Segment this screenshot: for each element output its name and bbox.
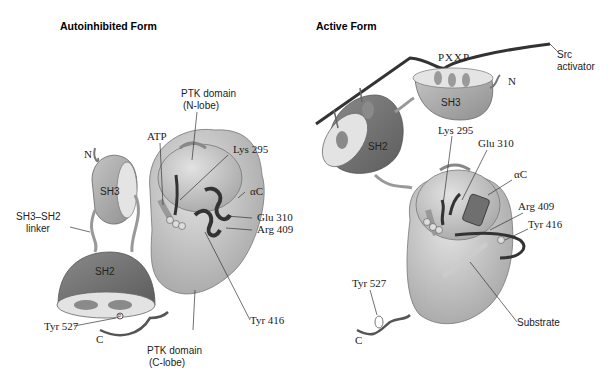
tyr416-phospho xyxy=(498,237,505,244)
label-c-terminus-active: C xyxy=(355,334,362,346)
c-term-tail-active xyxy=(357,315,410,334)
label-lys295-active: Lys 295 xyxy=(438,124,474,136)
n-lobe-loop-active xyxy=(440,165,470,170)
sh2-pocket-b xyxy=(336,131,348,149)
panel-title-active: Active Form xyxy=(316,20,377,32)
label-pxxp-motif: PXXP xyxy=(438,51,470,63)
sh2-sh3-linker xyxy=(395,98,414,112)
label-sh2: SH2 xyxy=(95,266,115,277)
label-tyr416-active: Tyr 416 xyxy=(528,218,563,230)
autoinhibited-panel: Autoinhibited Form P xyxy=(16,20,294,368)
label-ptk-c-lobe: PTK domain xyxy=(147,345,202,356)
label-n-terminus-active: N xyxy=(508,75,516,87)
label-lys295: Lys 295 xyxy=(233,143,269,155)
sh2-pocket-a xyxy=(362,101,374,119)
sh3-face xyxy=(117,162,137,218)
sh2-kinase-linker xyxy=(375,175,412,188)
label-sh2-active: SH2 xyxy=(368,141,388,152)
sh3-pocket-3 xyxy=(462,73,470,87)
label-n-terminus: N xyxy=(84,148,92,160)
sh3-pocket-1 xyxy=(434,71,442,85)
label-c-terminus: C xyxy=(96,333,103,345)
sh3-sh2-linker-chain xyxy=(91,210,96,252)
label-linker: SH3–SH2 xyxy=(16,211,61,222)
label-ptk-c-lobe-sub: (C-lobe) xyxy=(149,357,185,368)
sh2-pocket-2 xyxy=(108,300,132,310)
label-atp: ATP xyxy=(147,130,167,142)
label-tyr527: Tyr 527 xyxy=(44,320,79,332)
tyr527-ring-active xyxy=(375,316,383,328)
label-substrate: Substrate xyxy=(517,317,560,328)
label-linker-sub: linker xyxy=(26,223,51,234)
label-arg409: Arg 409 xyxy=(257,223,294,235)
sh2-pocket-1 xyxy=(74,300,98,310)
panel-title-autoinhibited: Autoinhibited Form xyxy=(60,20,157,32)
sh2-face xyxy=(57,292,155,318)
sh3-pocket-2 xyxy=(448,73,456,87)
label-src-activator-sub: activator xyxy=(557,61,595,72)
label-ptk-n-lobe: PTK domain xyxy=(181,88,236,99)
label-src-activator: Src xyxy=(557,49,572,60)
label-tyr527-active: Tyr 527 xyxy=(352,277,387,289)
ptk-n-lobe xyxy=(158,144,242,212)
n-term-chain xyxy=(94,148,98,161)
label-glu310: Glu 310 xyxy=(257,211,293,223)
label-ptk-n-lobe-sub: (N-lobe) xyxy=(183,100,219,111)
label-tyr416: Tyr 416 xyxy=(250,314,285,326)
label-alpha-c-active: αC xyxy=(514,168,527,180)
label-arg409-active: Arg 409 xyxy=(518,200,555,212)
active-panel: Active Form xyxy=(313,20,595,346)
label-alpha-c: αC xyxy=(250,185,263,197)
label-sh3-active: SH3 xyxy=(441,97,461,108)
label-glu310-active: Glu 310 xyxy=(478,137,514,149)
src-kinase-diagram: Autoinhibited Form P xyxy=(0,0,616,382)
label-sh3: SH3 xyxy=(100,186,120,197)
